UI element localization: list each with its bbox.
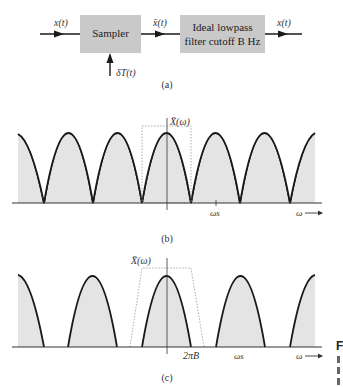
- input-arrow-icon: [54, 31, 64, 38]
- output-label: x(t): [276, 17, 292, 29]
- block-diagram: x(t) Sampler δT(t) x̄(t) Ideal lowpass f…: [40, 15, 302, 91]
- filter-label-line1: Ideal lowpass: [192, 21, 252, 33]
- figure: x(t) Sampler δT(t) x̄(t) Ideal lowpass f…: [0, 0, 343, 387]
- spectrum-fill: [18, 133, 315, 203]
- y-axis-label: X̄(ω): [169, 116, 190, 128]
- spectrum-b: X̄(ω) ωs ω (b): [12, 116, 323, 245]
- impulse-label: δT(t): [116, 67, 136, 79]
- x-axis-arrow-icon: [318, 211, 323, 216]
- ws-tick-label: ωs: [210, 208, 220, 218]
- caption-a: (a): [161, 79, 172, 91]
- sampled-arrow-icon: [155, 31, 165, 38]
- caption-b: (b): [161, 233, 173, 245]
- filter-label-line2: filter cutoff B Hz: [185, 35, 261, 47]
- side-text-bold: F: [336, 339, 343, 353]
- lobe-fill: [18, 275, 44, 347]
- caption-c: (c): [161, 372, 172, 384]
- ws-tick-label: ωs: [234, 351, 244, 361]
- sampler-label: Sampler: [92, 27, 129, 39]
- input-label: x(t): [53, 17, 69, 29]
- spectrum-c: X̄(ω) 2πB ωs ω (c): [12, 255, 323, 384]
- x-axis-label: ω: [296, 208, 302, 218]
- x-axis-label: ω: [296, 351, 302, 361]
- x-axis-arrow-icon: [318, 354, 323, 359]
- lobe-fill: [290, 275, 315, 347]
- side-text-fragment: F: [336, 339, 343, 385]
- y-axis-label: X̄(ω): [130, 255, 151, 267]
- 2piB-tick-label: 2πB: [183, 350, 199, 361]
- sampled-label: x̄(t): [152, 17, 168, 29]
- impulse-arrow-icon: [107, 53, 114, 63]
- output-arrow-icon: [278, 31, 288, 38]
